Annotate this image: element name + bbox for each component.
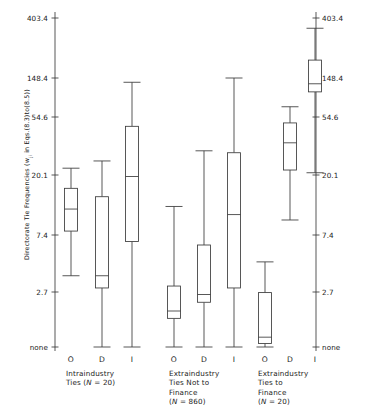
y-axis-label-left-1: 148.4	[4, 74, 48, 83]
group-caption-line: Intraindustry	[66, 369, 114, 378]
x-tick-1-O: O	[165, 355, 183, 364]
y-axis-label-right-6: none	[322, 343, 370, 352]
y-axis-label-right-5: 2.7	[322, 288, 370, 297]
box-2-D-body	[284, 123, 297, 170]
plot-canvas	[0, 0, 370, 412]
box-0-O-body	[65, 188, 78, 231]
group-n-value: = 20)	[92, 378, 115, 387]
group-caption-1: Extraindustry Ties Not to Finance (N = 8…	[169, 369, 265, 406]
group-caption-2: Extraindustry Ties to Finance (N = 20)	[258, 369, 354, 406]
group-caption-line: Extraindustry	[169, 369, 219, 378]
box-1-D-body	[198, 245, 211, 302]
y-axis-label-left-5: 2.7	[4, 288, 48, 297]
x-tick-0-O: O	[62, 355, 80, 364]
x-tick-1-D: D	[195, 355, 213, 364]
group-n-value: = 860)	[178, 397, 206, 406]
y-axis-label-left-6: none	[4, 343, 48, 352]
box-1-I-body	[228, 153, 241, 288]
y-axis-label-right-4: 7.4	[322, 231, 370, 240]
y-axis-label-right-1: 148.4	[322, 74, 370, 83]
y-axis-label-left-0: 403.4	[4, 14, 48, 23]
x-tick-2-I: I	[306, 355, 324, 364]
group-caption-line: Ties Not to	[169, 378, 209, 387]
y-axis-label-right-2: 54.6	[322, 113, 370, 122]
y-axis-label-left-3: 20.1	[4, 171, 48, 180]
x-tick-1-I: I	[225, 355, 243, 364]
box-2-I-body	[309, 60, 322, 92]
group-caption-line: Finance	[169, 388, 198, 397]
y-axis-label-right-0: 403.4	[322, 14, 370, 23]
y-axis-label-left-2: 54.6	[4, 113, 48, 122]
box-0-D-body	[96, 197, 109, 288]
x-tick-2-O: O	[256, 355, 274, 364]
group-n-value: = 20)	[267, 397, 290, 406]
x-tick-2-D: D	[281, 355, 299, 364]
group-caption-0: Intraindustry Ties (N = 20)	[66, 369, 162, 388]
group-caption-line: Ties (	[66, 378, 86, 387]
x-tick-0-D: D	[93, 355, 111, 364]
group-caption-line: Finance	[258, 388, 287, 397]
box-0-I-body	[126, 126, 139, 241]
page-footer-partial	[0, 406, 370, 412]
box-1-O-body	[168, 286, 181, 318]
y-axis-label-right-3: 20.1	[322, 171, 370, 180]
group-caption-line: Extraindustry	[258, 369, 308, 378]
box-2-O-body	[259, 293, 272, 344]
x-tick-0-I: I	[123, 355, 141, 364]
group-caption-line: Ties to	[258, 378, 283, 387]
y-axis-label-left-4: 7.4	[4, 231, 48, 240]
